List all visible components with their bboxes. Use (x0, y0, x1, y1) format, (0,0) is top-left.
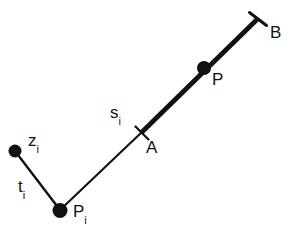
point-z-i-dot (9, 145, 22, 158)
label-p-i-base: P (73, 202, 84, 221)
segment-a-b (141, 19, 258, 134)
point-p-dot (197, 61, 211, 75)
label-z-i-base: z (28, 131, 37, 150)
label-s-i-subscript: i (119, 115, 121, 127)
segment-s-i (60, 132, 143, 211)
diagram-svg (0, 0, 299, 238)
label-p-i-subscript: i (84, 214, 86, 226)
figure-canvas: zi ti Pi si A P B (0, 0, 299, 238)
label-t-i-subscript: i (23, 189, 25, 201)
label-s-i: si (110, 104, 121, 124)
label-b: B (270, 24, 281, 41)
label-a: A (146, 139, 157, 156)
label-z-i-subscript: i (37, 143, 39, 155)
label-p: P (212, 71, 223, 88)
label-p-i: Pi (73, 203, 87, 223)
label-z-i: zi (28, 132, 39, 152)
label-t-i: ti (18, 178, 25, 198)
label-s-i-base: s (110, 103, 119, 122)
point-p-i-dot (53, 203, 68, 218)
